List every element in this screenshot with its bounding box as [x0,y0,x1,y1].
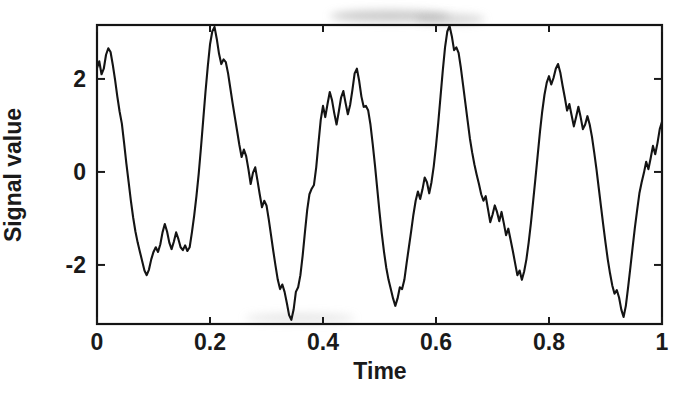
y-axis-title-text: Signal value [2,108,25,242]
xtick-label-3: 0.6 [420,331,452,354]
plot-area [0,0,697,400]
axis-frame [97,25,662,324]
y-axis-title: Signal value [2,41,25,175]
signal-line [97,26,662,320]
y-axis-ticks [97,79,662,265]
data-series-group [97,26,662,320]
xtick-label-0: 0 [91,331,104,354]
xtick-label-4: 0.8 [533,331,565,354]
x-axis-title: Time [353,360,406,383]
xtick-label-1: 0.2 [194,331,226,354]
x-axis-ticks [97,25,662,324]
xtick-label-2: 0.4 [307,331,339,354]
ytick-label-2: 2 [54,68,86,91]
plot-frame [97,25,662,324]
ytick-label-neg2: -2 [44,254,86,277]
ytick-label-0: 0 [54,161,86,184]
figure-container: 0 0.2 0.4 0.6 0.8 1 2 0 -2 Time Signal v… [0,0,697,400]
xtick-label-5: 1 [656,331,669,354]
